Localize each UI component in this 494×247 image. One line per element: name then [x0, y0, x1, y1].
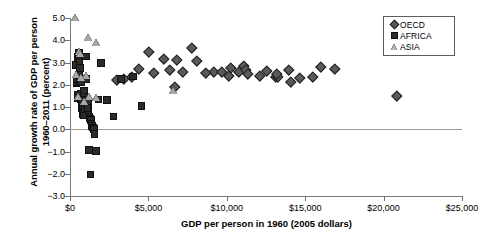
y-tick-label: 1.0	[52, 102, 65, 112]
x-tick-mark	[305, 196, 306, 201]
legend-label-africa: AFRICA	[400, 31, 432, 41]
y-tick-label: −3.0	[47, 191, 65, 201]
data-point-oecd	[148, 68, 159, 79]
x-tick-mark	[148, 196, 149, 201]
y-axis-tick-labels: 5.04.03.02.01.00.0−1.0−2.0−3.0	[34, 18, 65, 196]
y-tick-mark	[65, 63, 70, 64]
y-tick-label: 5.0	[52, 13, 65, 23]
data-point-oecd	[392, 90, 403, 101]
data-point-asia	[71, 14, 79, 21]
x-tick-label: $25,000	[446, 203, 479, 213]
data-point-oecd	[158, 54, 169, 65]
legend-item-asia: ASIA	[388, 41, 450, 52]
data-point-africa	[85, 146, 93, 154]
y-tick-label: −1.0	[47, 147, 65, 157]
data-point-oecd	[171, 54, 182, 65]
y-tick-mark	[65, 85, 70, 86]
zero-reference-line	[70, 129, 462, 130]
y-tick-mark	[65, 18, 70, 19]
y-tick-mark	[65, 129, 70, 130]
data-point-asia	[77, 74, 85, 81]
legend-label-asia: ASIA	[400, 42, 420, 52]
triangle-icon	[388, 44, 400, 50]
y-tick-label: 0.0	[52, 124, 65, 134]
y-tick-label: 3.0	[52, 58, 65, 68]
x-tick-mark	[384, 196, 385, 201]
legend-label-oecd: OECD	[400, 20, 425, 30]
y-tick-label: −2.0	[47, 169, 65, 179]
data-point-africa	[87, 171, 95, 179]
data-point-asia	[84, 34, 92, 41]
data-point-africa	[97, 59, 105, 67]
data-point-oecd	[330, 64, 341, 75]
x-tick-mark	[462, 196, 463, 201]
data-point-oecd	[143, 47, 154, 58]
y-tick-mark	[65, 174, 70, 175]
legend-item-oecd: OECD	[388, 19, 450, 30]
data-point-africa	[138, 102, 146, 110]
x-tick-mark	[227, 196, 228, 201]
data-point-africa	[91, 130, 99, 138]
x-tick-label: $15,000	[289, 203, 322, 213]
data-point-africa	[129, 73, 137, 81]
x-axis-title: GDP per person in 1960 (2005 dollars)	[70, 218, 463, 229]
data-point-africa	[117, 75, 125, 83]
y-tick-label: 2.0	[52, 80, 65, 90]
diamond-icon	[388, 21, 400, 28]
data-point-oecd	[186, 42, 197, 53]
data-point-oecd	[164, 65, 175, 76]
legend-item-africa: AFRICA	[388, 30, 450, 41]
data-point-africa	[103, 96, 111, 104]
square-icon	[388, 32, 400, 39]
data-point-oecd	[177, 67, 188, 78]
data-point-asia	[92, 39, 100, 46]
data-point-asia	[169, 87, 177, 94]
data-point-oecd	[307, 72, 318, 83]
y-tick-mark	[65, 107, 70, 108]
data-point-asia	[92, 94, 100, 101]
data-point-africa	[92, 147, 100, 155]
x-tick-mark	[70, 196, 71, 201]
data-point-africa	[84, 104, 92, 112]
y-tick-label: 4.0	[52, 35, 65, 45]
data-point-oecd	[284, 64, 295, 75]
y-axis-title-container: Annual growth rate of GDP per person 196…	[0, 0, 34, 210]
data-point-africa	[110, 113, 118, 121]
x-tick-label: $5,000	[135, 203, 163, 213]
x-tick-label: $20,000	[367, 203, 400, 213]
x-tick-label: $0	[65, 203, 75, 213]
data-point-oecd	[316, 61, 327, 72]
y-tick-mark	[65, 40, 70, 41]
data-point-oecd	[191, 56, 202, 67]
y-tick-mark	[65, 152, 70, 153]
scatter-plot-figure: Annual growth rate of GDP per person 196…	[0, 0, 494, 247]
chart-legend: OECD AFRICA ASIA	[383, 16, 455, 56]
x-tick-label: $10,000	[211, 203, 244, 213]
data-point-asia	[76, 50, 84, 57]
data-point-oecd	[200, 67, 211, 78]
data-point-asia	[80, 98, 88, 105]
